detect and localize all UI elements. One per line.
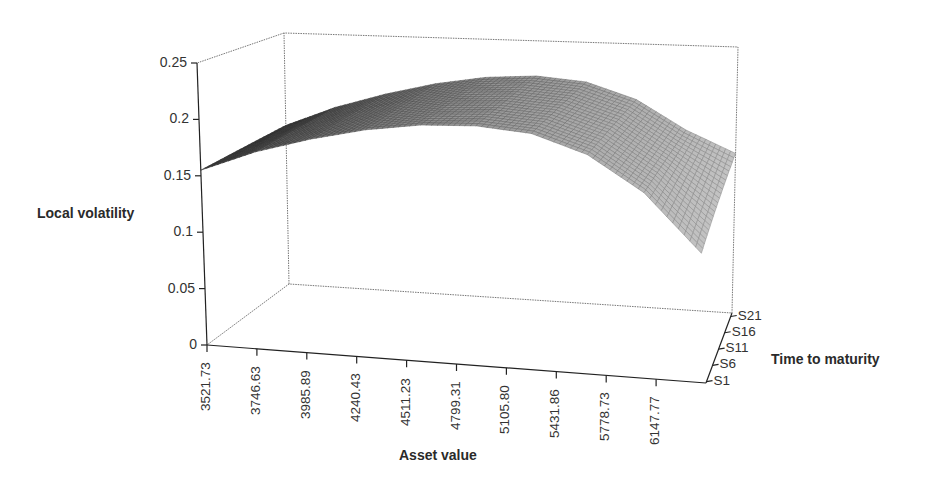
x-tick-label: 6147.77 (647, 396, 662, 445)
x-tick-label: 4511.23 (398, 378, 413, 426)
z-tick-label: 0.15 (151, 167, 191, 183)
surface-chart (0, 0, 929, 484)
x-tick-label: 3985.89 (298, 370, 313, 419)
x-tick-label: 5105.80 (497, 385, 512, 434)
volatility-surface (201, 76, 736, 253)
x-tick-label: 5431.86 (547, 389, 562, 438)
x-tick-label: 3521.73 (198, 362, 213, 411)
z-tick-label: 0.2 (149, 110, 189, 126)
x-axis-title: Asset value (399, 447, 477, 463)
x-tick-label: 5778.73 (597, 393, 612, 442)
z-tick-label: 0 (157, 336, 197, 352)
x-tick-label: 4240.43 (348, 374, 363, 423)
y-tick-label: S11 (726, 340, 749, 355)
y-axis-title: Time to maturity (771, 351, 880, 367)
z-tick-label: 0.1 (153, 223, 193, 239)
y-tick-label: S16 (732, 324, 756, 339)
y-tick-label: S1 (714, 373, 731, 388)
x-tick-label: 4799.31 (448, 381, 463, 430)
z-axis-title: Local volatility (37, 205, 134, 221)
y-tick-label: S21 (738, 308, 762, 323)
x-tick-label: 3746.63 (248, 366, 263, 415)
z-tick-label: 0.25 (147, 54, 187, 70)
z-tick-label: 0.05 (155, 280, 195, 296)
y-tick-label: S6 (720, 356, 737, 371)
